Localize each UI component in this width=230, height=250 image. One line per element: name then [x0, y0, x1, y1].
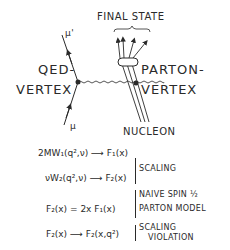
- parton-model-note-1: NAIVE SPIN ½: [139, 190, 198, 199]
- qed-vertex-label-2: VERTEX: [16, 82, 72, 97]
- scaling-violation-bracket: [135, 225, 136, 241]
- final-state-brace: [114, 26, 150, 32]
- equation-3: F₂(x) = 2x F₁(x): [46, 204, 115, 214]
- parton-vertex-label-2: VERTEX: [141, 82, 197, 97]
- equation-4: F₂(x) ⟶ F₂(x,q²): [46, 229, 119, 239]
- muon-out-label: μ': [65, 28, 74, 38]
- scaling-bracket: [135, 158, 136, 184]
- scaling-violation-note-2: VIOLATION: [148, 233, 194, 242]
- final-state-arrow: [118, 40, 120, 58]
- scaling-note: SCALING: [139, 164, 176, 173]
- hadronization-blob: [118, 58, 138, 66]
- parton-model-bracket: [135, 190, 136, 218]
- equation-1: 2MW₁(q²,ν) ⟶ F₁(x): [38, 148, 128, 158]
- equation-2: νW₂(q²,ν) ⟶ F₂(x): [45, 173, 127, 183]
- final-state-label: FINAL STATE: [97, 11, 164, 22]
- nucleon-line: [122, 64, 141, 122]
- final-state-arrow: [129, 40, 134, 58]
- parton-vertex-label-1: PARTON-: [141, 62, 205, 77]
- muon-in-arrow: [66, 106, 70, 118]
- nucleon-label: NUCLEON: [123, 126, 176, 137]
- final-state-arrow: [123, 39, 124, 58]
- final-state-arrow: [133, 42, 146, 58]
- parton-model-note-2: PARTON MODEL: [139, 204, 206, 213]
- muon-in-label: μ: [70, 121, 76, 131]
- qed-vertex-label-1: QED-: [38, 62, 75, 77]
- scaling-violation-note-1: SCALING: [139, 223, 176, 232]
